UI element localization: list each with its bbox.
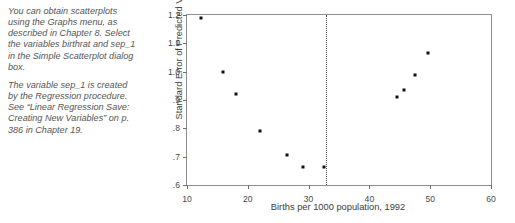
y-axis-tick-label: .7 — [173, 152, 180, 162]
data-point — [426, 52, 429, 55]
reference-line — [326, 15, 327, 185]
y-axis-tick-label: .9 — [173, 95, 180, 105]
x-axis-tick: 20 — [248, 185, 249, 189]
data-point — [414, 73, 417, 76]
x-axis-tick: 30 — [309, 185, 310, 189]
data-point — [322, 166, 325, 169]
y-axis-tick-label: 1.2 — [168, 10, 180, 20]
y-axis-tick-label: .8 — [173, 123, 180, 133]
y-axis-tick: 1.0 — [183, 72, 187, 73]
y-axis-tick: .9 — [183, 100, 187, 101]
y-axis-tick: 1.1 — [183, 43, 187, 44]
margin-note: You can obtain scatterplots using the Gr… — [8, 6, 136, 136]
data-point — [199, 16, 202, 19]
x-axis-tick: 60 — [491, 185, 492, 189]
y-axis-tick-label: 1.1 — [168, 38, 180, 48]
scatterplot-figure: Standard Error of Predicted Value .6.7.8… — [138, 0, 515, 223]
x-axis-tick: 50 — [430, 185, 431, 189]
x-axis-title: Births per 1000 population, 1992 — [186, 202, 490, 212]
data-point — [286, 154, 289, 157]
data-point — [395, 96, 398, 99]
data-point — [258, 130, 261, 133]
x-axis-tick: 10 — [187, 185, 188, 189]
y-axis-tick-label: 1.0 — [168, 67, 180, 77]
margin-note-paragraph-1: You can obtain scatterplots using the Gr… — [8, 6, 136, 73]
y-axis-tick-label: .6 — [173, 180, 180, 190]
y-axis-tick: .7 — [183, 157, 187, 158]
data-point — [222, 70, 225, 73]
data-point — [234, 93, 237, 96]
margin-note-paragraph-2: The variable sep_1 is created by the Reg… — [8, 80, 136, 136]
y-axis-tick: 1.2 — [183, 15, 187, 16]
y-axis-tick: .8 — [183, 128, 187, 129]
data-point — [301, 166, 304, 169]
data-point — [403, 89, 406, 92]
plot-area: .6.7.8.91.01.11.2102030405060 — [186, 14, 492, 186]
x-axis-tick: 40 — [369, 185, 370, 189]
